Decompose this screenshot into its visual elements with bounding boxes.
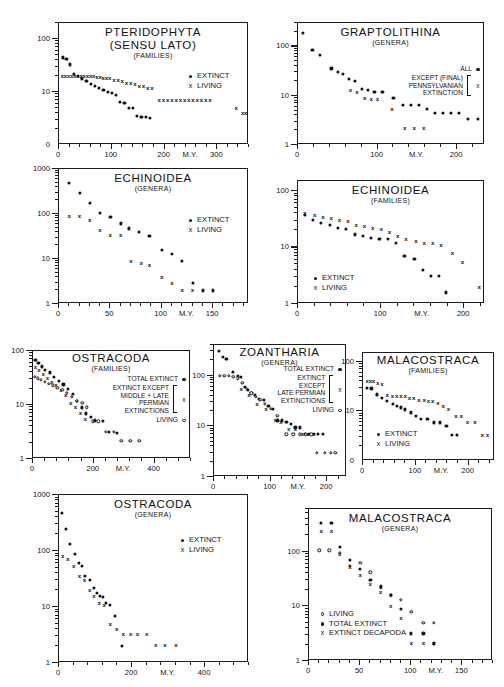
legend-marker-dot	[375, 429, 382, 439]
y-minor-tick	[210, 377, 213, 378]
y-minor-tick	[55, 523, 58, 524]
y-minor-tick	[55, 499, 58, 500]
y-tick	[207, 425, 213, 426]
data-point: x	[133, 81, 136, 87]
x-minor-tick	[164, 144, 165, 147]
data-point: x	[191, 287, 194, 293]
legend-label: LIVING	[189, 545, 214, 555]
y-minor-tick	[359, 368, 362, 369]
legend-item: xEXTINCT DECAPODA	[319, 628, 406, 638]
y-minor-tick	[359, 395, 362, 396]
chart-panel-malacostraca-families: xxxxxxxxxxxxxxxxxxxxxxxxxEXTINCTxLIVINGM…	[314, 336, 504, 486]
data-point	[341, 72, 344, 75]
data-point	[438, 421, 441, 424]
x-minor-tick	[69, 144, 70, 147]
data-point: x	[116, 77, 119, 83]
y-minor-tick	[55, 618, 58, 619]
data-point	[366, 89, 369, 92]
legend-label: LIVING	[197, 225, 222, 235]
chart-legend: EXTINCTxLIVING	[375, 429, 418, 448]
x-minor-tick	[206, 144, 207, 147]
data-point	[123, 101, 126, 104]
y-minor-tick	[55, 231, 58, 232]
y-minor-tick	[294, 276, 297, 277]
chart-legend: LIVINGTOTAL EXTINCTxEXTINCT DECAPODA	[319, 609, 406, 638]
data-point: x	[409, 640, 412, 646]
y-minor-tick	[55, 579, 58, 580]
data-point	[66, 387, 69, 390]
x-minor-tick	[175, 662, 176, 665]
x-minor-tick	[380, 303, 381, 306]
data-point: x	[454, 413, 457, 419]
x-axis-unit-label: M.Y.	[402, 309, 442, 318]
y-minor-tick	[55, 182, 58, 183]
x-minor-tick	[270, 476, 271, 479]
x-minor-tick	[58, 303, 59, 306]
x-minor-tick	[425, 460, 426, 463]
data-point: x	[358, 571, 361, 577]
data-point: x	[363, 223, 366, 229]
x-minor-tick	[392, 144, 393, 147]
chart-title: PTERIDOPHYTA	[58, 26, 248, 38]
data-point	[386, 400, 389, 403]
data-point	[85, 80, 88, 83]
data-point	[218, 374, 221, 377]
chart-title-line2: (SENSU LATO)	[58, 39, 248, 51]
y-minor-tick	[359, 430, 362, 431]
data-point	[127, 106, 130, 109]
y-minor-tick	[55, 497, 58, 498]
x-minor-tick	[397, 303, 398, 306]
y-tick	[52, 91, 58, 92]
y-tick-label: 1	[10, 658, 50, 667]
y-minor-tick	[359, 445, 362, 446]
data-point	[191, 281, 194, 284]
data-point: x	[115, 626, 118, 632]
data-point	[395, 404, 398, 407]
y-minor-tick	[29, 371, 32, 372]
data-point: x	[129, 631, 132, 637]
chart-subtitle: (GENERA)	[297, 39, 484, 46]
data-point: x	[412, 125, 415, 131]
x-minor-tick	[129, 458, 130, 461]
y-tick	[26, 404, 32, 405]
data-point	[62, 383, 65, 386]
data-point: x	[238, 660, 241, 661]
data-point	[92, 586, 95, 589]
data-point	[119, 439, 122, 442]
data-point: x	[162, 97, 165, 103]
data-point: x	[466, 419, 469, 425]
data-point	[68, 63, 71, 66]
data-point	[370, 236, 373, 239]
chart-panel-ostracoda-genera: xxxxxxxxxxxxxxxxxxxxxxxxEXTINCTxLIVINGOS…	[10, 478, 260, 687]
y-tick	[52, 38, 58, 39]
x-minor-tick	[441, 660, 442, 663]
x-minor-tick	[68, 303, 69, 306]
x-minor-tick	[482, 660, 483, 663]
data-point: x	[422, 125, 425, 131]
y-minor-tick	[55, 217, 58, 218]
data-point	[80, 564, 83, 567]
x-minor-tick	[141, 458, 142, 461]
x-minor-tick	[383, 460, 384, 463]
data-point: x	[84, 416, 87, 422]
data-point: x	[481, 432, 484, 438]
data-point: x	[372, 378, 375, 384]
x-axis-unit-label: M.Y.	[148, 668, 188, 677]
legend-item: EXTINCT	[187, 71, 230, 81]
x-minor-tick	[120, 303, 121, 306]
data-point: x	[183, 97, 186, 103]
data-point	[438, 275, 441, 278]
data-point: x	[390, 105, 393, 111]
y-minor-tick	[294, 212, 297, 213]
y-minor-tick	[359, 418, 362, 419]
x-minor-tick	[461, 660, 462, 663]
y-minor-tick	[305, 553, 308, 554]
data-point: x	[354, 222, 357, 228]
x-tick-label: 0	[277, 150, 317, 159]
x-minor-tick	[58, 144, 59, 147]
data-point	[88, 579, 91, 582]
x-tick-label: 100	[357, 150, 397, 159]
data-point	[375, 393, 378, 396]
y-minor-tick	[294, 121, 297, 122]
y-tick-label: 1000	[10, 490, 50, 499]
